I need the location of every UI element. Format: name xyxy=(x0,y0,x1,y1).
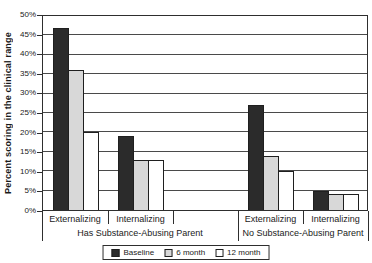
y-tick-label-20: 20% xyxy=(0,128,36,138)
y-tick-mark-25 xyxy=(37,113,42,114)
legend-label-12-month: 12 month xyxy=(227,248,260,257)
legend-label-baseline: Baseline xyxy=(124,248,155,257)
group-label-1: No Substance-Abusing Parent xyxy=(238,227,368,240)
6-month-swatch-icon xyxy=(164,249,172,257)
plot-area xyxy=(42,15,368,211)
bar-12-month-internalizing-1 xyxy=(148,160,164,210)
y-tick-mark-40 xyxy=(37,54,42,55)
y-tick-label-10: 10% xyxy=(0,167,36,177)
category-label-1-internalizing: Internalizing xyxy=(108,212,173,226)
legend-item-12-month: 12 month xyxy=(215,248,260,257)
bar-baseline-externalizing-2 xyxy=(248,105,264,210)
category-divider-short-4 xyxy=(303,211,304,224)
y-tick-label-40: 40% xyxy=(0,49,36,59)
group-label-0: Has Substance-Abusing Parent xyxy=(42,227,238,240)
y-tick-mark-30 xyxy=(37,93,42,94)
y-tick-label-50: 50% xyxy=(0,10,36,20)
legend-label-6-month: 6 month xyxy=(176,248,205,257)
legend-item-6-month: 6 month xyxy=(164,248,205,257)
y-tick-mark-20 xyxy=(37,133,42,134)
bar-group-2-externalizing xyxy=(238,16,303,210)
legend-item-baseline: Baseline xyxy=(112,248,155,257)
y-tick-mark-5 xyxy=(37,191,42,192)
bar-group-0-externalizing xyxy=(43,16,108,210)
y-tick-mark-45 xyxy=(37,35,42,36)
bar-12-month-externalizing-2 xyxy=(278,171,294,210)
bar-baseline-internalizing-3 xyxy=(313,191,329,210)
category-label-0-externalizing: Externalizing xyxy=(42,212,108,226)
bar-12-month-internalizing-3 xyxy=(343,194,359,210)
category-divider-short-2 xyxy=(173,211,174,224)
y-tick-label-15: 15% xyxy=(0,147,36,157)
y-tick-label-0: 0% xyxy=(0,206,36,216)
y-tick-label-25: 25% xyxy=(0,108,36,118)
y-tick-label-30: 30% xyxy=(0,88,36,98)
bar-6-month-internalizing-1 xyxy=(133,160,149,210)
y-tick-label-35: 35% xyxy=(0,69,36,79)
y-tick-mark-15 xyxy=(37,152,42,153)
y-tick-mark-35 xyxy=(37,74,42,75)
bar-6-month-internalizing-3 xyxy=(328,194,344,210)
legend-box: Baseline6 month12 month xyxy=(103,245,270,260)
baseline-swatch-icon xyxy=(112,249,120,257)
clinical-range-bar-chart: Percent scoring in the clinical range 50… xyxy=(0,0,372,263)
bar-group-1-internalizing xyxy=(108,16,173,210)
bar-baseline-internalizing-1 xyxy=(118,136,134,210)
category-divider-short-1 xyxy=(108,211,109,224)
bar-group-3-internalizing xyxy=(303,16,368,210)
bar-6-month-externalizing-2 xyxy=(263,156,279,210)
category-divider-long-5 xyxy=(368,211,369,241)
category-label-2-externalizing: Externalizing xyxy=(238,212,303,226)
bar-6-month-externalizing-0 xyxy=(68,70,84,210)
y-tick-mark-50 xyxy=(37,15,42,16)
category-label-3-internalizing: Internalizing xyxy=(303,212,368,226)
y-tick-label-5: 5% xyxy=(0,186,36,196)
y-tick-mark-10 xyxy=(37,172,42,173)
12-month-swatch-icon xyxy=(215,249,223,257)
bar-baseline-externalizing-0 xyxy=(53,28,69,210)
y-tick-label-45: 45% xyxy=(0,30,36,40)
bar-12-month-externalizing-0 xyxy=(83,132,99,210)
